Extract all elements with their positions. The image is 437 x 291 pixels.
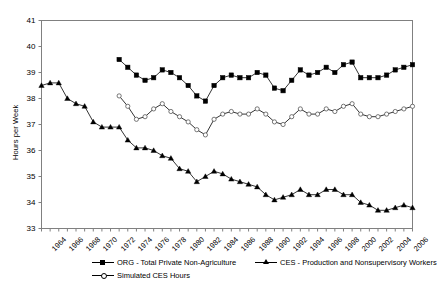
data-point	[211, 169, 216, 174]
legend-entry-ces: CES - Production and Nonsupervisory Work…	[255, 258, 437, 267]
data-point	[255, 70, 259, 74]
data-point	[246, 76, 250, 80]
data-point	[229, 176, 234, 181]
data-point	[229, 73, 233, 77]
y-tick-label: 33	[22, 224, 36, 233]
data-point	[341, 104, 345, 108]
data-point	[402, 107, 406, 111]
data-point	[238, 112, 242, 116]
data-point	[290, 115, 294, 119]
y-tick-label: 39	[22, 68, 36, 77]
data-point	[298, 107, 302, 111]
legend-label-simulated: Simulated CES Hours	[117, 271, 190, 280]
data-point	[367, 115, 371, 119]
data-point	[160, 102, 164, 106]
data-point	[221, 112, 225, 116]
data-point	[203, 174, 208, 179]
y-tick-label: 38	[22, 94, 36, 103]
data-point	[186, 120, 190, 124]
data-point	[186, 83, 190, 87]
legend-label-ces: CES - Production and Nonsupervisory Work…	[280, 258, 437, 267]
data-point	[91, 119, 96, 124]
data-point	[264, 112, 268, 116]
data-point	[393, 68, 397, 72]
series-1	[39, 80, 415, 212]
open-circle-icon	[92, 271, 114, 280]
data-point	[307, 73, 311, 77]
data-point	[126, 104, 130, 108]
data-point	[212, 83, 216, 87]
data-point	[402, 65, 406, 69]
data-point	[350, 60, 354, 64]
data-point	[298, 68, 302, 72]
data-point	[255, 107, 259, 111]
data-point	[65, 96, 70, 101]
data-point	[160, 153, 165, 158]
data-point	[126, 65, 130, 69]
legend-row-1: ORG - Total Private Non-Agriculture CES …	[0, 258, 432, 267]
data-point	[376, 115, 380, 119]
data-point	[272, 86, 276, 90]
data-point	[117, 94, 121, 98]
data-point	[281, 89, 285, 93]
data-point	[117, 57, 121, 61]
data-point	[324, 107, 328, 111]
data-point	[350, 102, 354, 106]
data-point	[212, 117, 216, 121]
y-axis-title: Hours per Week	[11, 105, 20, 160]
y-tick-label: 40	[22, 42, 36, 51]
data-point	[143, 78, 147, 82]
legend-entry-simulated: Simulated CES Hours	[92, 271, 190, 280]
data-point	[152, 107, 156, 111]
legend-entry-org: ORG - Total Private Non-Agriculture	[92, 258, 236, 267]
data-point	[410, 104, 414, 108]
data-point	[307, 112, 311, 116]
data-point	[125, 137, 130, 142]
data-point	[410, 63, 414, 67]
data-point	[195, 94, 199, 98]
data-point	[203, 99, 207, 103]
series-0	[117, 57, 415, 103]
data-point	[229, 109, 233, 113]
data-point	[333, 109, 337, 113]
data-point	[289, 192, 294, 197]
data-point	[359, 76, 363, 80]
data-point	[143, 115, 147, 119]
legend-row-2: Simulated CES Hours	[0, 271, 432, 280]
data-point	[169, 70, 173, 74]
y-tick-label: 34	[22, 198, 36, 207]
y-tick-label: 36	[22, 146, 36, 155]
data-point	[401, 202, 406, 207]
data-point	[324, 65, 328, 69]
data-point	[134, 117, 138, 121]
data-point	[315, 112, 319, 116]
filled-square-icon	[92, 258, 114, 267]
data-point	[177, 76, 181, 80]
data-point	[203, 133, 207, 137]
data-point	[177, 115, 181, 119]
data-point	[315, 70, 319, 74]
data-point	[290, 78, 294, 82]
data-point	[160, 68, 164, 72]
data-point	[359, 112, 363, 116]
data-point	[151, 76, 155, 80]
data-point	[169, 109, 173, 113]
y-tick-label: 37	[22, 120, 36, 129]
data-point	[384, 73, 388, 77]
data-point	[393, 109, 397, 113]
data-point	[385, 112, 389, 116]
data-point	[238, 76, 242, 80]
data-point	[195, 128, 199, 132]
filled-triangle-icon	[255, 258, 277, 267]
data-point	[73, 101, 78, 106]
chart-legend: ORG - Total Private Non-Agriculture CES …	[0, 258, 432, 280]
data-point	[264, 73, 268, 77]
series-2	[117, 94, 415, 137]
y-tick-label: 41	[22, 16, 36, 25]
data-point	[341, 63, 345, 67]
data-point	[376, 76, 380, 80]
data-point	[272, 120, 276, 124]
data-point	[367, 76, 371, 80]
data-point	[333, 70, 337, 74]
